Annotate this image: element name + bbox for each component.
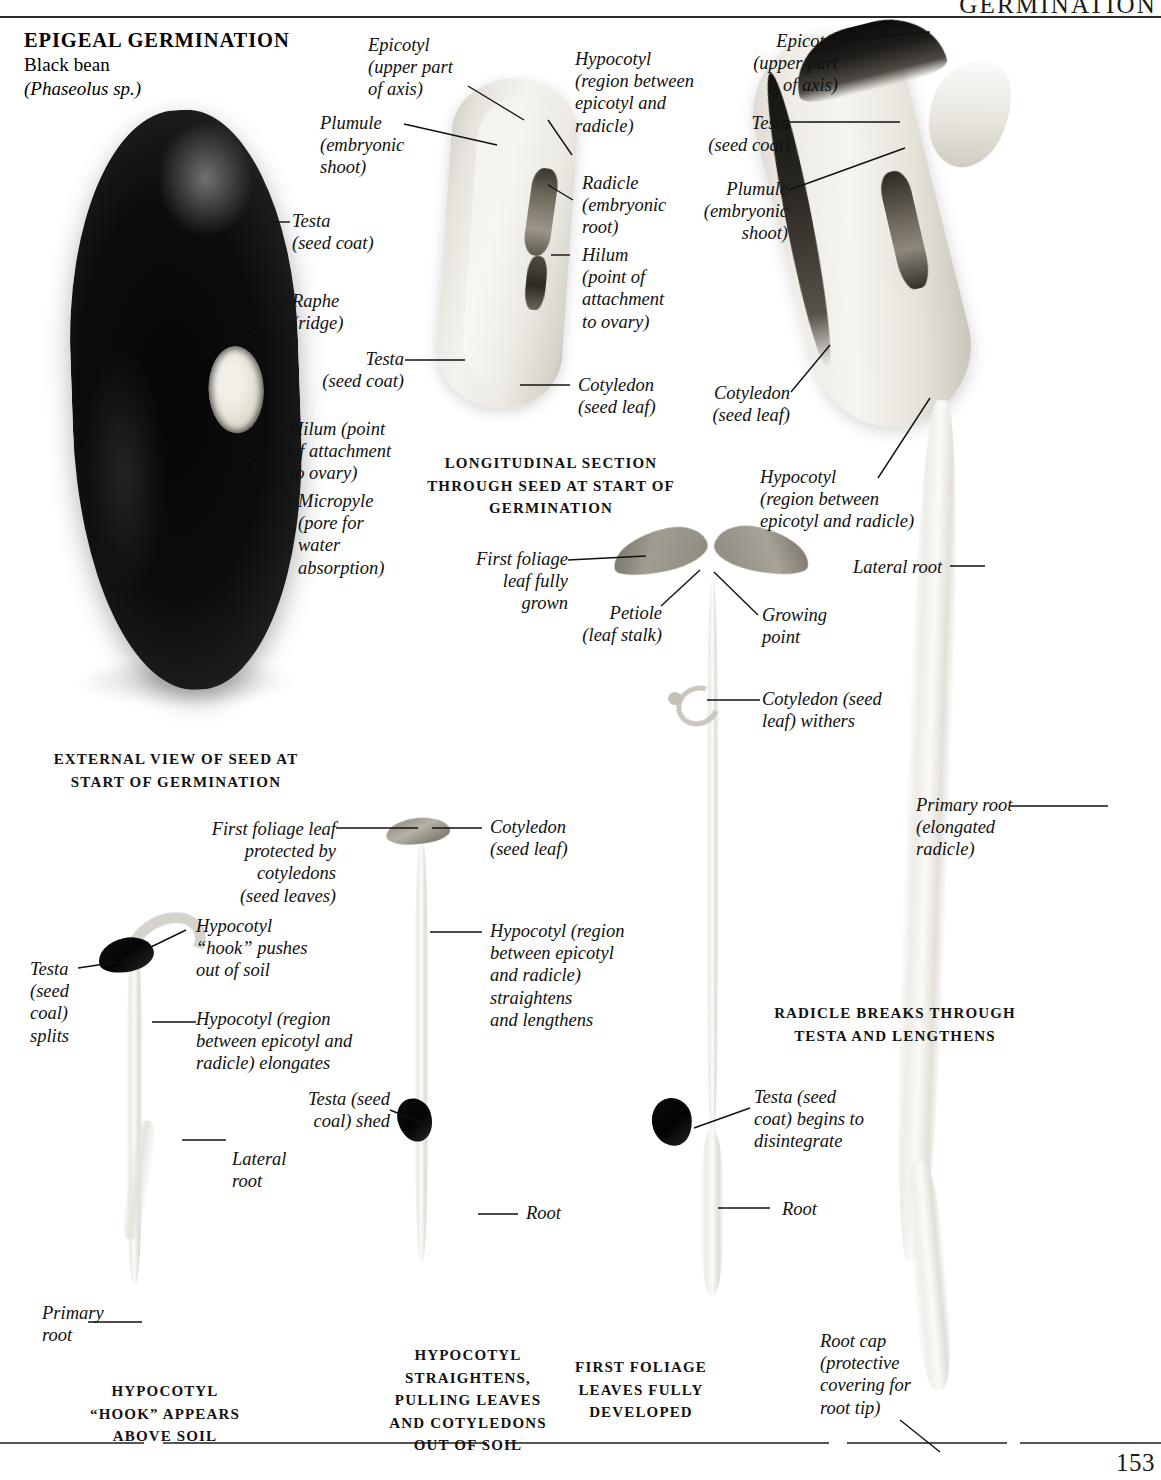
label-testa-disintegrates: Testa (seed coat) begins to disintegrate	[754, 1086, 864, 1153]
caption-hook-appears: HYPOCOTYL “HOOK” APPEARS ABOVE SOIL	[20, 1380, 310, 1448]
label-hypocotyl-straightens: Hypocotyl (region between epicotyl and r…	[490, 920, 624, 1031]
seedling-stage2-cotyledon	[385, 815, 451, 848]
caption-radicle-breaks: RADICLE BREAKS THROUGH TESTA AND LENGTHE…	[735, 1002, 1055, 1047]
label-hypocotyl-elongates: Hypocotyl (region between epicotyl and r…	[196, 1008, 352, 1075]
label-testa-radicle-panel: Testa (seed coat)	[690, 112, 790, 156]
label-root-stage2: Root	[526, 1202, 561, 1224]
label-cotyledon-stage2: Cotyledon (seed leaf)	[490, 816, 568, 860]
seedling-stage1-lateral-root	[119, 1119, 160, 1241]
title-main: EPIGEAL GERMINATION	[24, 28, 290, 53]
footer-rule-4	[847, 1442, 1007, 1444]
header-rule	[0, 16, 1103, 18]
label-plumule-radicle-panel: Plumule (embryonic shoot)	[660, 178, 788, 245]
title-common-name: Black bean	[24, 53, 290, 77]
label-lateral-root-radicle-panel: Lateral root	[853, 556, 942, 578]
label-primary-root-radicle-panel: Primary root (elongated radicle)	[916, 794, 1012, 861]
page-title: EPIGEAL GERMINATION Black bean (Phaseolu…	[24, 28, 290, 102]
label-hilum-section: Hilum (point of attachment to ovary)	[582, 244, 664, 333]
label-primary-root-stage1: Primary root	[42, 1302, 104, 1346]
label-cotyledon-section: Cotyledon (seed leaf)	[578, 374, 656, 418]
seedling-stage3-stem	[706, 580, 719, 1140]
label-first-foliage-protected: First foliage leaf protected by cotyledo…	[186, 818, 336, 907]
label-root-stage3: Root	[782, 1198, 817, 1220]
label-plumule-section: Plumule (embryonic shoot)	[320, 112, 404, 179]
page-number: 153	[1116, 1449, 1155, 1477]
label-micropyle: Micropyle (pore for water absorption)	[298, 490, 384, 579]
label-growing-point: Growing point	[762, 604, 827, 648]
label-hypocotyl-section: Hypocotyl (region between epicotyl and r…	[575, 48, 694, 137]
label-testa-shed: Testa (seed coal) shed	[236, 1088, 390, 1132]
label-testa: Testa (seed coat)	[292, 210, 374, 254]
seedling-stage2-stem	[414, 838, 429, 1263]
label-hilum: Hilum (point of attachment to ovary)	[290, 418, 391, 485]
running-head: GERMINATION	[959, 0, 1157, 19]
seedling-stage3-leaf-left	[609, 520, 712, 581]
germination-page: GERMINATION 153 EPIGEAL GERMINATION Blac…	[0, 0, 1161, 1480]
label-root-cap: Root cap (protective covering for root t…	[820, 1330, 911, 1419]
label-petiole: Petiole (leaf stalk)	[540, 602, 662, 646]
label-lateral-root-stage1: Lateral root	[232, 1148, 286, 1192]
caption-external-view: EXTERNAL VIEW OF SEED AT START OF GERMIN…	[36, 748, 316, 793]
title-scientific-name: (Phaseolus sp.)	[24, 77, 290, 101]
seedling-stage3-disintegrating-testa	[649, 1095, 695, 1148]
label-raphe: Raphe (ridge)	[292, 290, 343, 334]
caption-longitudinal-section: LONGITUDINAL SECTION THROUGH SEED AT STA…	[420, 452, 682, 520]
label-hypocotyl-radicle-panel: Hypocotyl (region between epicotyl and r…	[760, 466, 914, 533]
seedling-stage3-withered-cotyledon-2	[668, 692, 682, 705]
label-cotyledon-withers: Cotyledon (seed leaf) withers	[762, 688, 882, 732]
black-bean-external-photo	[62, 106, 310, 694]
label-hypocotyl-hook: Hypocotyl “hook” pushes out of soil	[196, 915, 308, 982]
caption-first-foliage: FIRST FOLIAGE LEAVES FULLY DEVELOPED	[516, 1356, 766, 1424]
label-testa-splits: Testa (seed coal) splits	[30, 958, 69, 1047]
label-cotyledon-radicle-panel: Cotyledon (seed leaf)	[660, 382, 790, 426]
seedling-stage3-lower-stem	[700, 1130, 724, 1295]
label-radicle-section: Radicle (embryonic root)	[582, 172, 666, 239]
label-epicotyl-section: Epicotyl (upper part of axis)	[368, 34, 453, 101]
label-testa-section: Testa (seed coat)	[300, 348, 404, 392]
footer-rule-5	[1020, 1442, 1161, 1444]
label-epicotyl-radicle-panel: Epicotyl (upper part of axis)	[700, 30, 838, 97]
seedling-stage2-shed-testa	[393, 1094, 438, 1146]
